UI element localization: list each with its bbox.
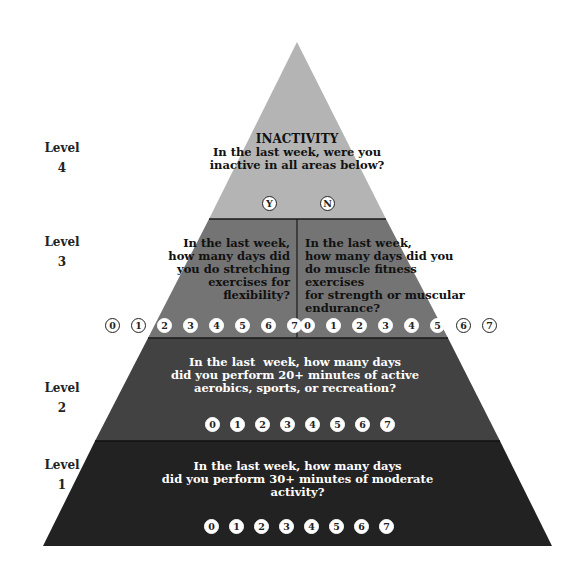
- moderate-option-7[interactable]: 7: [379, 519, 394, 534]
- moderate-option-3[interactable]: 3: [279, 519, 294, 534]
- flex-option-5[interactable]: 5: [235, 318, 250, 333]
- moderate-option-0[interactable]: 0: [204, 519, 219, 534]
- level-3-label-text: Level: [32, 232, 92, 252]
- level-1-question: In the last week, how many days did you …: [140, 460, 455, 499]
- level-3-label: Level 3: [32, 232, 92, 272]
- moderate-option-6[interactable]: 6: [354, 519, 369, 534]
- aerobic-option-6[interactable]: 6: [355, 417, 370, 432]
- level-3-left-question: In the last week, how many days did you …: [150, 237, 290, 302]
- moderate-option-5[interactable]: 5: [329, 519, 344, 534]
- level-4-question-line-2: inactive in all areas below?: [197, 159, 397, 172]
- level-2-number: 2: [32, 398, 92, 418]
- option-no[interactable]: N: [320, 196, 335, 211]
- muscle-option-7[interactable]: 7: [482, 318, 497, 333]
- level-1-label-text: Level: [32, 455, 92, 475]
- muscle-option-6[interactable]: 6: [456, 318, 471, 333]
- flex-option-0[interactable]: 0: [105, 318, 120, 333]
- level-4-options: Y N: [262, 196, 335, 211]
- muscle-option-5[interactable]: 5: [430, 318, 445, 333]
- aerobic-option-3[interactable]: 3: [280, 417, 295, 432]
- level-4-number: 4: [32, 158, 92, 178]
- level-4-title: INACTIVITY: [197, 132, 397, 146]
- level-1-options: 0 1 2 3 4 5 6 7: [204, 519, 394, 534]
- flex-option-3[interactable]: 3: [183, 318, 198, 333]
- level-3-right-line-5: endurance?: [305, 302, 465, 315]
- muscle-option-0[interactable]: 0: [300, 318, 315, 333]
- moderate-option-2[interactable]: 2: [254, 519, 269, 534]
- level-3-right-question: In the last week, how many days did you …: [305, 237, 465, 315]
- level-3-right-line-3: do muscle fitness exercises: [305, 263, 465, 289]
- level-3-left-line-4: exercises for flexibility?: [150, 276, 290, 302]
- muscle-option-2[interactable]: 2: [352, 318, 367, 333]
- muscle-option-1[interactable]: 1: [326, 318, 341, 333]
- level-2-options: 0 1 2 3 4 5 6 7: [205, 417, 395, 432]
- muscle-option-4[interactable]: 4: [404, 318, 419, 333]
- flex-option-2[interactable]: 2: [157, 318, 172, 333]
- level-4-label-text: Level: [32, 138, 92, 158]
- aerobic-option-2[interactable]: 2: [255, 417, 270, 432]
- aerobic-option-7[interactable]: 7: [380, 417, 395, 432]
- option-yes[interactable]: Y: [262, 196, 277, 211]
- level-2-label: Level 2: [32, 378, 92, 418]
- level-2-question: In the last week, how many days did you …: [150, 356, 440, 395]
- level-4-label: Level 4: [32, 138, 92, 178]
- level-1-line-2: did you perform 30+ minutes of moderate …: [140, 473, 455, 499]
- level-2-line-3: aerobics, sports, or recreation?: [150, 382, 440, 395]
- moderate-option-4[interactable]: 4: [304, 519, 319, 534]
- level-3-left-options: 0 1 2 3 4 5 6 7: [105, 318, 302, 333]
- flex-option-1[interactable]: 1: [131, 318, 146, 333]
- flex-option-4[interactable]: 4: [209, 318, 224, 333]
- level-1-label: Level 1: [32, 455, 92, 495]
- moderate-option-1[interactable]: 1: [229, 519, 244, 534]
- aerobic-option-5[interactable]: 5: [330, 417, 345, 432]
- level-2-label-text: Level: [32, 378, 92, 398]
- muscle-option-3[interactable]: 3: [378, 318, 393, 333]
- flex-option-6[interactable]: 6: [261, 318, 276, 333]
- level-4-question: INACTIVITY In the last week, were you in…: [197, 132, 397, 172]
- aerobic-option-4[interactable]: 4: [305, 417, 320, 432]
- level-1-number: 1: [32, 475, 92, 495]
- level-3-number: 3: [32, 252, 92, 272]
- level-3-right-options: 0 1 2 3 4 5 6 7: [300, 318, 497, 333]
- level-4-band: [209, 42, 386, 219]
- aerobic-option-0[interactable]: 0: [205, 417, 220, 432]
- aerobic-option-1[interactable]: 1: [230, 417, 245, 432]
